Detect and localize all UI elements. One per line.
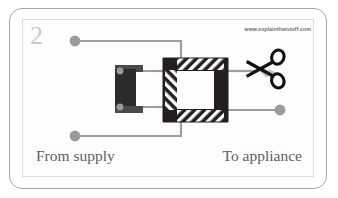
wire-supply-top <box>75 41 181 60</box>
terminal-dots-group <box>70 36 286 142</box>
terminal-dot-coil-bottom <box>117 104 124 111</box>
caption-to-appliance: To appliance <box>223 147 302 165</box>
core-hatch-top <box>177 58 224 70</box>
scissors-icon <box>246 48 287 90</box>
scissors-pivot <box>259 67 262 70</box>
core-hatch-left <box>165 70 177 110</box>
laminated-iron-core-ring <box>163 58 228 122</box>
transformer-diagram <box>0 0 338 198</box>
terminal-dot-appliance <box>275 105 286 116</box>
caption-from-supply: From supply <box>36 147 115 165</box>
terminal-dot-supply-top <box>70 36 81 47</box>
core-hatch-bottom <box>177 110 224 122</box>
terminal-dot-supply-bottom <box>70 131 81 142</box>
figure-root: 2 www.explainthatstuff.com <box>0 0 338 198</box>
terminal-dot-coil-top <box>117 68 124 75</box>
